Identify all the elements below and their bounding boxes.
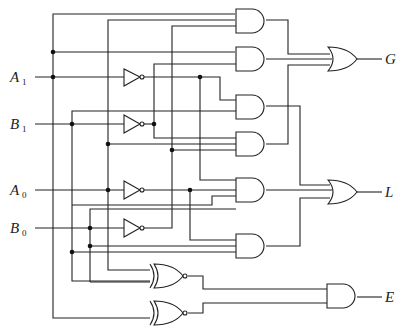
svg-text:A: A	[9, 182, 20, 198]
input-label-b0: B 0	[10, 220, 27, 238]
comparator-circuit: A 1 B 1 A 0 B 0 G L E	[0, 0, 402, 331]
and-gate-2	[236, 47, 264, 71]
inverter-b1	[124, 115, 144, 133]
svg-text:B: B	[10, 220, 19, 236]
or-gate-g	[328, 47, 357, 71]
output-label-e: E	[384, 289, 394, 305]
inverter-b0	[124, 219, 144, 237]
svg-text:0: 0	[22, 190, 27, 200]
xnor-gate-2	[150, 301, 187, 325]
and-gate-6	[236, 234, 264, 258]
input-label-a1: A 1	[9, 69, 27, 87]
output-label-l: L	[384, 184, 393, 200]
and-gate-3	[236, 95, 264, 119]
output-label-g: G	[385, 51, 396, 67]
and-gate-4	[236, 132, 264, 156]
wires	[35, 14, 382, 318]
input-label-a0: A 0	[9, 182, 27, 200]
svg-text:A: A	[9, 69, 20, 85]
and-gate-5	[236, 178, 264, 202]
and-gate-e	[327, 284, 355, 308]
svg-text:B: B	[10, 116, 19, 132]
inverter-a0	[124, 181, 144, 199]
and-gate-1	[236, 9, 264, 33]
xnor-gate-1	[150, 264, 187, 288]
svg-text:1: 1	[22, 77, 27, 87]
or-gate-l	[328, 180, 357, 204]
svg-text:1: 1	[22, 124, 27, 134]
svg-text:0: 0	[22, 228, 27, 238]
inverter-a1	[124, 69, 144, 86]
input-label-b1: B 1	[10, 116, 27, 134]
